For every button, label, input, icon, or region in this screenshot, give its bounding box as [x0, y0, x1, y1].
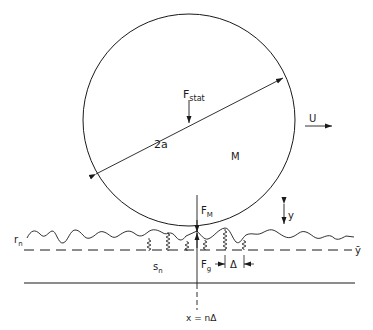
- spring-label: sn: [153, 261, 163, 275]
- static-force-label: Fstat: [183, 88, 205, 103]
- contact-force-label: FM: [201, 205, 213, 219]
- diameter-line: [96, 78, 283, 174]
- displacement-label: y: [288, 210, 294, 221]
- spacing-label: Δ: [230, 259, 237, 270]
- velocity-label: U: [309, 113, 316, 124]
- diameter-label: 2a: [154, 138, 168, 151]
- ground-force-label: Fg: [201, 259, 211, 273]
- roughness-label: rn: [14, 234, 23, 248]
- mass-label: M: [231, 151, 240, 162]
- rough-surface: [27, 228, 354, 243]
- diagram-canvas: Fstat 2a M U y rn ȳ sn FM Fg Δ: [0, 0, 373, 330]
- position-label: x = nΔ: [186, 313, 217, 323]
- mean-height-label: ȳ: [355, 245, 361, 256]
